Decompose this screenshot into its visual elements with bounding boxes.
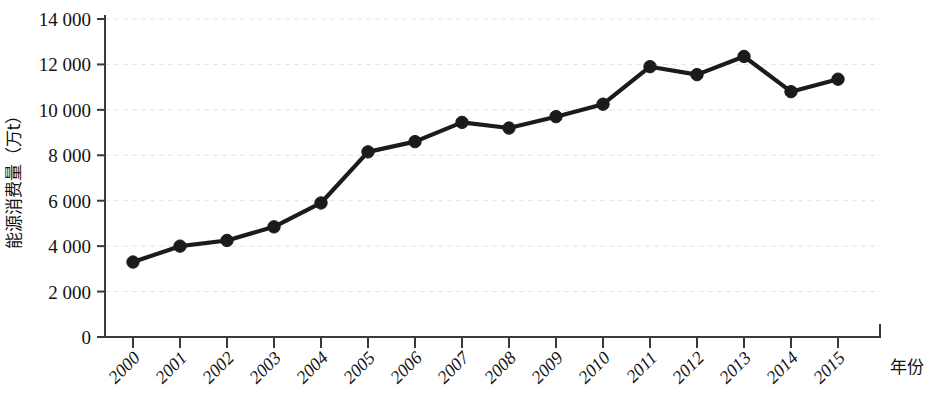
data-point-marker	[409, 135, 421, 147]
x-axis-line	[105, 324, 880, 337]
data-point-marker	[456, 116, 468, 128]
x-tick-label: 2008	[480, 348, 520, 388]
y-tick-label: 10 000	[39, 100, 91, 121]
y-tick-group: 02 0004 0006 0008 00010 00012 00014 000	[39, 9, 105, 348]
data-point-marker	[268, 221, 280, 233]
data-point-marker	[503, 122, 515, 134]
data-point-marker	[832, 73, 844, 85]
x-tick-label: 2004	[292, 348, 332, 388]
data-point-marker	[362, 146, 374, 158]
axis-group	[105, 15, 880, 337]
gridline-group	[105, 19, 880, 292]
x-tick-label: 2015	[809, 348, 849, 388]
x-tick-group: 2000200120022003200420052006200720082009…	[104, 337, 849, 387]
x-tick-label: 2000	[104, 348, 144, 388]
x-tick-label: 2002	[198, 348, 238, 388]
data-point-marker	[127, 256, 139, 268]
x-tick-label: 2014	[762, 348, 802, 388]
data-point-marker	[174, 240, 186, 252]
x-tick-label: 2013	[715, 348, 755, 388]
x-tick-label: 2012	[668, 348, 708, 388]
data-point-marker	[691, 68, 703, 80]
y-tick-label: 12 000	[39, 54, 91, 75]
x-tick-label: 2006	[386, 348, 426, 388]
y-tick-label: 6 000	[48, 191, 91, 212]
x-axis-title: 年份	[890, 357, 924, 377]
x-tick-label: 2003	[245, 348, 285, 388]
y-axis-title: 能源消费量（万t）	[4, 107, 24, 250]
y-tick-label: 14 000	[39, 9, 91, 30]
data-point-marker	[315, 197, 327, 209]
x-tick-label: 2007	[433, 347, 473, 387]
data-point-marker	[785, 85, 797, 97]
x-tick-label: 2001	[151, 348, 191, 388]
x-tick-label: 2009	[527, 348, 567, 388]
data-point-marker	[550, 110, 562, 122]
chart-canvas: 02 0004 0006 0008 00010 00012 00014 000 …	[0, 0, 933, 393]
y-tick-label: 0	[82, 327, 92, 348]
y-tick-label: 4 000	[48, 236, 91, 257]
y-tick-label: 8 000	[48, 145, 91, 166]
data-point-marker	[644, 60, 656, 72]
x-tick-label: 2010	[574, 348, 614, 388]
data-series-group	[127, 50, 844, 268]
series-line	[133, 56, 838, 262]
data-point-marker	[221, 234, 233, 246]
y-tick-label: 2 000	[48, 282, 91, 303]
data-point-marker	[738, 50, 750, 62]
x-tick-label: 2005	[339, 348, 379, 388]
data-point-marker	[597, 98, 609, 110]
x-tick-label: 2011	[622, 348, 661, 387]
energy-consumption-line-chart: 02 0004 0006 0008 00010 00012 00014 000 …	[0, 0, 933, 393]
